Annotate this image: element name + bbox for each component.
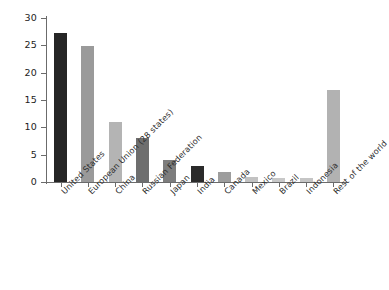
y-tick-label-0: 0 — [0, 177, 37, 187]
bar — [54, 33, 67, 182]
y-tick-label-10: 10 — [0, 122, 37, 132]
y-tick-label-30: 30 — [0, 13, 37, 23]
y-tick-label-15: 15 — [0, 95, 37, 105]
y-tick-label-5: 5 — [0, 150, 37, 160]
y-tick-label-20: 20 — [0, 68, 37, 78]
bar — [191, 166, 204, 182]
y-tick-0 — [41, 182, 47, 183]
y-tick-label-25: 25 — [0, 40, 37, 50]
